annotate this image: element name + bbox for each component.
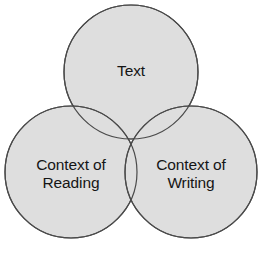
venn-label-context-of-writing: Context of Writing: [133, 156, 249, 192]
venn-diagram-figure: Text Context of Reading Context of Writi…: [0, 0, 268, 256]
venn-label-context-of-reading: Context of Reading: [13, 156, 129, 192]
venn-circles-canvas: [0, 0, 268, 256]
venn-label-text: Text: [91, 62, 171, 80]
